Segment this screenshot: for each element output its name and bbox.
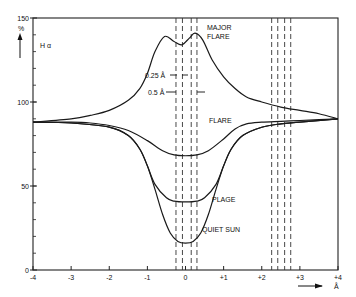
annotation-0-25A: 0.25 Å (145, 71, 166, 79)
curves (33, 33, 338, 243)
x-axis-arrow-icon (315, 284, 323, 289)
x-tick-label: +2 (258, 274, 266, 281)
h-alpha-profile-chart: -4-3-2-10+1+2+3+4050100150 H α % Å MAJOR… (0, 0, 356, 297)
curve-quiet-sun (33, 119, 338, 243)
label-major-flare-1: MAJOR (207, 24, 232, 31)
y-axis-arrow-icon (18, 33, 23, 40)
plot-frame (33, 18, 338, 270)
y-tick-label: 150 (17, 15, 29, 22)
label-quiet-sun: QUIET SUN (202, 226, 240, 234)
label-major-flare-2: FLARE (207, 33, 230, 40)
x-tick-label: +3 (296, 274, 304, 281)
label-plage: PLAGE (212, 196, 236, 203)
x-axis-label: Å (334, 282, 339, 290)
x-tick-label: -3 (68, 274, 74, 281)
y-tick-label: 0 (25, 267, 29, 274)
x-tick-label: -1 (144, 274, 150, 281)
label-flare: FLARE (209, 117, 232, 124)
annotation-0-5A: 0.5 Å (148, 88, 165, 96)
x-tick-label: -2 (106, 274, 112, 281)
chart-title: H α (40, 42, 51, 49)
x-tick-label: -4 (30, 274, 36, 281)
plot-border (33, 18, 338, 270)
y-tick-label: 100 (17, 99, 29, 106)
x-tick-label: 0 (184, 274, 188, 281)
x-tick-label: +4 (334, 274, 342, 281)
axis-ticks: -4-3-2-10+1+2+3+4050100150 (17, 15, 342, 282)
y-tick-label: 50 (21, 183, 29, 190)
y-axis-label: % (18, 25, 24, 32)
x-tick-label: +1 (220, 274, 228, 281)
curve-flare (33, 119, 338, 156)
curve-major-flare (33, 33, 338, 122)
curve-plage (33, 119, 338, 202)
